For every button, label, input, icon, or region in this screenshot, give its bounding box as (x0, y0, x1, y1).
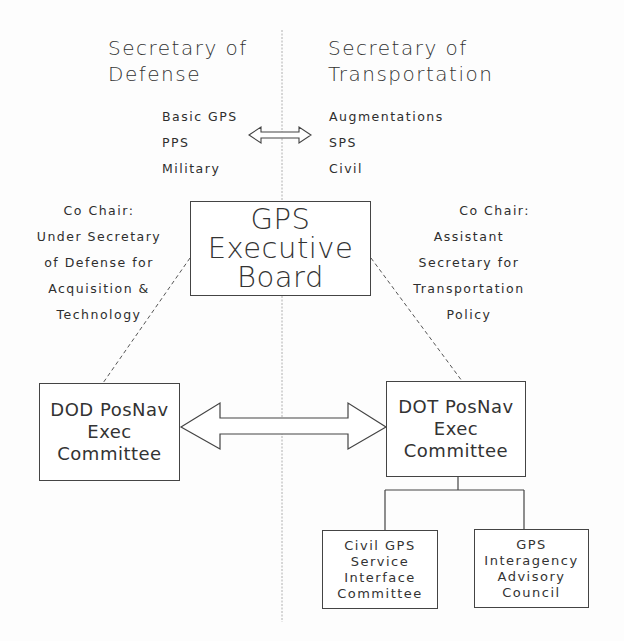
co-chair-line: Secretary for (404, 250, 534, 276)
box-label-line: Service (351, 554, 410, 570)
co-chair-line: Policy (404, 302, 534, 328)
co-chair-line: Transportation (404, 276, 534, 302)
box-label-line: DOD PosNav (50, 399, 168, 421)
co-chair-line: Assistant (404, 224, 534, 250)
transportation-services-list: Augmentations SPS Civil (329, 104, 444, 182)
dot-posnav-committee-box: DOT PosNav Exec Committee (386, 381, 526, 477)
box-label-line: Board (237, 263, 324, 292)
gps-executive-board-box: GPS Executive Board (190, 201, 371, 296)
box-label-line: Interface (344, 570, 416, 586)
service-item: PPS (162, 130, 238, 156)
gps-interagency-advisory-council-box: GPS Interagency Advisory Council (474, 529, 589, 608)
co-chair-line: Co Chair: (404, 198, 534, 224)
services-double-arrow (249, 127, 311, 143)
box-label-line: GPS (516, 537, 547, 553)
box-label-line: Committee (404, 440, 508, 462)
box-label-line: DOT PosNav (398, 396, 514, 418)
box-label-line: Advisory (498, 569, 566, 585)
service-item: Augmentations (329, 104, 444, 130)
heading-line: Defense (108, 61, 248, 87)
sec-transportation-heading: Secretary of Transportation (328, 35, 493, 87)
service-item: Civil (329, 156, 444, 182)
heading-line: Secretary of (328, 35, 493, 61)
heading-line: Secretary of (108, 35, 248, 61)
committees-double-arrow (181, 403, 386, 449)
co-chair-line: Technology (24, 302, 174, 328)
service-item: Military (162, 156, 238, 182)
box-label-line: Council (502, 585, 560, 601)
dod-posnav-committee-box: DOD PosNav Exec Committee (39, 383, 180, 481)
box-label-line: Exec (87, 421, 131, 443)
transportation-co-chair: Co Chair: Assistant Secretary for Transp… (404, 198, 534, 328)
sec-defense-heading: Secretary of Defense (108, 35, 248, 87)
heading-line: Transportation (328, 61, 493, 87)
box-label-line: Interagency (484, 553, 578, 569)
box-label-line: Committee (337, 586, 423, 602)
civil-gps-service-interface-committee-box: Civil GPS Service Interface Committee (322, 530, 438, 609)
co-chair-line: Under Secretary (24, 224, 174, 250)
co-chair-line: Acquisition & (24, 276, 174, 302)
co-chair-line: Co Chair: (24, 198, 174, 224)
service-item: Basic GPS (162, 104, 238, 130)
box-label-line: Committee (57, 443, 161, 465)
defense-services-list: Basic GPS PPS Military (162, 104, 238, 182)
defense-co-chair: Co Chair: Under Secretary of Defense for… (24, 198, 174, 328)
box-label-line: Executive (208, 234, 354, 263)
box-label-line: Civil GPS (344, 538, 415, 554)
gps-governance-diagram: Secretary of Defense Secretary of Transp… (0, 0, 624, 641)
co-chair-line: of Defense for (24, 250, 174, 276)
box-label-line: Exec (434, 418, 478, 440)
box-label-line: GPS (251, 205, 311, 234)
service-item: SPS (329, 130, 444, 156)
